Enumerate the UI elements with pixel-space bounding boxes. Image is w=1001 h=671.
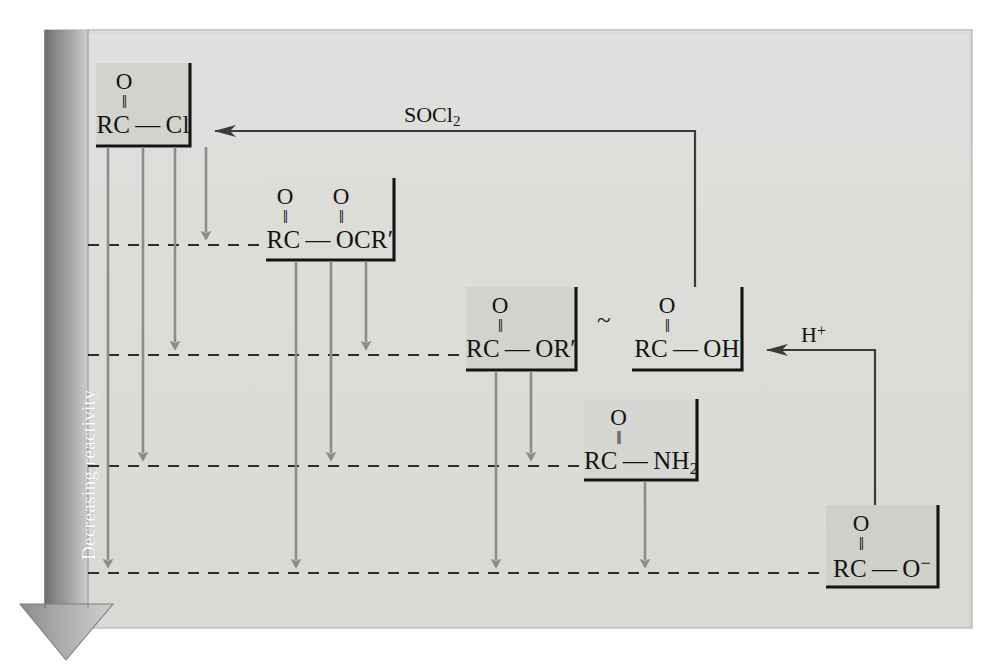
structure-anhydride: OO ‖‖ RC — OCR′: [266, 185, 394, 252]
ester-oxygen: O: [424, 294, 576, 317]
ester-double-bond: ‖: [424, 317, 576, 336]
acid-chloride-double-bond: ‖: [58, 93, 190, 112]
structure-amide: O ‖ RC — NH2: [584, 406, 697, 477]
ester-formula: RC — OR′: [466, 336, 576, 361]
carboxylate-formula: RC — O−: [826, 554, 938, 581]
anhydride-oxygens: OO: [266, 185, 394, 208]
acid-chloride-formula: RC — Cl: [96, 112, 190, 137]
amide-oxygen: O: [540, 406, 697, 429]
carboxylic-acid-formula: RC — OH: [632, 336, 742, 361]
carboxylate-oxygen: O: [784, 512, 938, 535]
reagent-label-socl2: SOCl2: [404, 102, 460, 130]
figure-stage: Decreasing reactivity O ‖ RC — Cl OO ‖‖ …: [0, 0, 1001, 671]
structure-carboxylic-acid: O ‖ RC — OH: [632, 294, 742, 361]
anhydride-double-bonds: ‖‖: [266, 208, 394, 227]
anhydride-formula: RC — OCR′: [266, 227, 394, 252]
carboxylate-double-bond: ‖: [784, 535, 938, 554]
carboxylic-acid-oxygen: O: [592, 294, 742, 317]
amide-formula: RC — NH2: [584, 448, 697, 477]
structure-ester: O ‖ RC — OR′: [466, 294, 576, 361]
carboxylic-acid-double-bond: ‖: [592, 317, 742, 336]
acid-chloride-oxygen: O: [58, 70, 190, 93]
decreasing-reactivity-label: Decreasing reactivity: [78, 390, 100, 560]
structure-acid-chloride: O ‖ RC — Cl: [96, 70, 190, 137]
reagent-label-hplus: H+: [801, 322, 826, 348]
structure-carboxylate: O ‖ RC — O−: [826, 512, 938, 581]
amide-double-bond: ‖: [540, 429, 697, 448]
